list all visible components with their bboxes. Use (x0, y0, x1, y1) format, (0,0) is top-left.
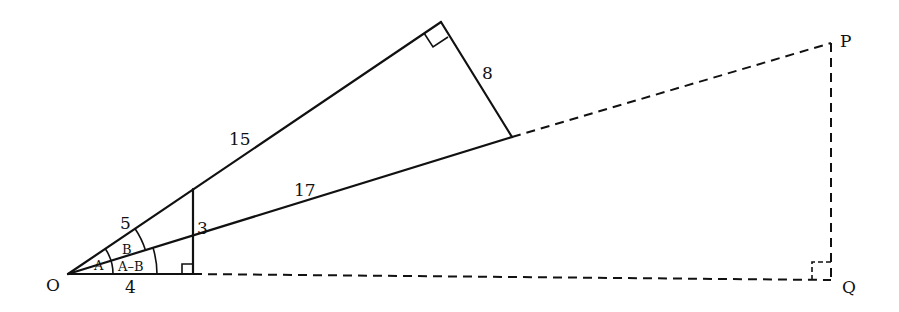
label-side-8: 8 (482, 63, 493, 83)
label-Q: Q (842, 277, 856, 297)
line-O-17 (68, 137, 512, 274)
line-top-8 (441, 22, 512, 137)
label-angle-A: A (93, 258, 104, 273)
label-P: P (840, 31, 851, 51)
label-side-17: 17 (294, 180, 316, 200)
label-O: O (46, 275, 60, 295)
label-side-3: 3 (197, 218, 208, 238)
line-O-top-15 (68, 22, 441, 274)
label-angle-A-minus-B: A–B (117, 259, 143, 274)
trig-diagram: O P Q 5 3 4 15 8 17 A B A–B (0, 0, 899, 312)
arc-angle-A-minus-B (153, 248, 157, 274)
label-side-15: 15 (229, 129, 251, 149)
right-angle-marker-small (182, 264, 193, 274)
dashed-extension-to-P (512, 43, 831, 137)
dashed-baseline-to-Q (193, 274, 831, 280)
arc-angle-B (135, 229, 145, 250)
label-side-5: 5 (120, 213, 131, 233)
label-side-4: 4 (125, 277, 136, 297)
label-angle-B: B (122, 242, 132, 257)
right-angle-marker-top (424, 33, 448, 47)
right-angle-marker-Q (812, 262, 831, 280)
